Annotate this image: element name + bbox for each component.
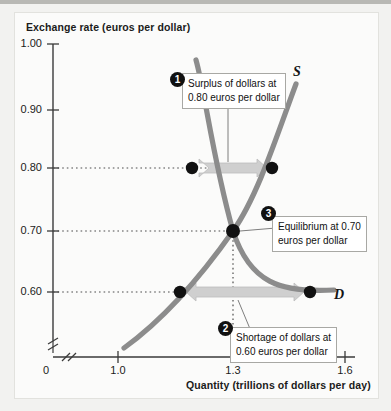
figure-container: Exchange rate (euros per dollar) Quantit… bbox=[0, 0, 391, 411]
y-tick-label-0-90: 0.90 bbox=[8, 103, 42, 115]
y-axis-title: Exchange rate (euros per dollar) bbox=[26, 21, 190, 33]
callout-shortage: Shortage of dollars at 0.60 euros per do… bbox=[230, 327, 337, 363]
demand-curve-label: D bbox=[334, 287, 344, 303]
leader-lines bbox=[228, 106, 276, 336]
surplus-arrow bbox=[199, 159, 267, 177]
leader-3 bbox=[240, 228, 276, 231]
badge-1: 1 bbox=[170, 72, 185, 87]
supply-curve-label: S bbox=[293, 64, 301, 80]
callout-shortage-line1: Shortage of dollars at bbox=[236, 331, 331, 345]
y-tick-label-1-00: 1.00 bbox=[8, 37, 42, 49]
callout-surplus-line2: 0.80 euros per dollar bbox=[188, 91, 280, 105]
equilibrium-point bbox=[226, 224, 240, 238]
callout-surplus: Surplus of dollars at 0.80 euros per dol… bbox=[182, 73, 286, 109]
badge-3: 3 bbox=[261, 206, 276, 221]
callout-equilibrium: Equilibrium at 0.70 euros per dollar bbox=[272, 216, 367, 252]
x-tick-label-1-0: 1.0 bbox=[101, 364, 135, 376]
badge-2: 2 bbox=[218, 321, 233, 336]
x-tick-label-1-6: 1.6 bbox=[328, 364, 362, 376]
x-tick-label-1-3: 1.3 bbox=[216, 364, 250, 376]
shortage-supply-point bbox=[174, 286, 186, 298]
callout-shortage-line2: 0.60 euros per dollar bbox=[236, 345, 331, 359]
x-axis-title: Quantity (trillions of dollars per day) bbox=[186, 379, 371, 391]
y-tick-label-0-80: 0.80 bbox=[8, 161, 42, 173]
surplus-supply-point bbox=[266, 162, 278, 174]
shortage-demand-point bbox=[304, 286, 316, 298]
callout-equilibrium-line1: Equilibrium at 0.70 bbox=[278, 220, 361, 234]
surplus-demand-point bbox=[186, 162, 198, 174]
origin-label: 0 bbox=[29, 364, 63, 376]
y-tick-label-0-70: 0.70 bbox=[8, 224, 42, 236]
y-tick-label-0-60: 0.60 bbox=[8, 285, 42, 297]
callout-surplus-line1: Surplus of dollars at bbox=[188, 77, 280, 91]
callout-equilibrium-line2: euros per dollar bbox=[278, 234, 361, 248]
